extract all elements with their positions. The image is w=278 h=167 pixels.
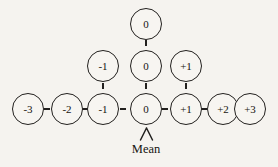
node-middle-row-0: -1 <box>87 50 119 82</box>
mean-label: Mean <box>116 142 176 157</box>
connector-top-0-to-mid-0 <box>145 40 148 46</box>
connector-neg1-to-0 <box>120 108 126 111</box>
node-bottom-row-3: 0 <box>130 93 162 125</box>
node-bottom-row-6: +3 <box>234 93 266 125</box>
node-bottom-row-4: +1 <box>170 93 202 125</box>
node-bottom-row-2: -1 <box>87 93 119 125</box>
node-bottom-row-0: -3 <box>12 93 44 125</box>
connector-neg3-to-neg2 <box>44 108 50 111</box>
caret-up-icon <box>139 127 154 141</box>
connector-0-to-pos1 <box>162 108 168 111</box>
node-top-row-0: 0 <box>130 8 162 40</box>
node-middle-row-1: 0 <box>130 50 162 82</box>
node-bottom-row-1: -2 <box>51 93 83 125</box>
node-middle-row-2: +1 <box>170 50 202 82</box>
deviation-diagram: 0-10+1-3-2-10+1+2+3Mean <box>0 0 278 167</box>
connector-mid-pos1-to-bottom-pos1 <box>185 83 188 89</box>
connector-mid-0-to-bottom-0 <box>145 83 148 89</box>
connector-mid-neg1-to-bottom-neg1 <box>102 83 105 89</box>
